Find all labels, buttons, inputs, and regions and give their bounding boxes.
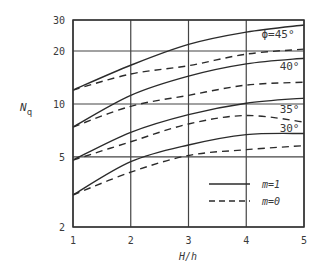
y-tick-label: 2 bbox=[59, 222, 65, 233]
legend: m=1 m=0 bbox=[209, 179, 280, 207]
y-axis-label: Nq bbox=[19, 101, 32, 117]
curve-labels: ϕ=45°40°35°30° bbox=[261, 28, 299, 136]
legend-label-m1: m=1 bbox=[261, 179, 280, 190]
nq-chart: 25102030 12345 ϕ=45°40°35°30° Nq H/h m=1… bbox=[0, 0, 320, 280]
y-axis-ticks: 25102030 bbox=[53, 15, 65, 233]
x-tick-label: 2 bbox=[128, 235, 134, 246]
curve-label: 40° bbox=[280, 60, 300, 73]
x-tick-label: 3 bbox=[185, 235, 191, 246]
y-tick-label: 20 bbox=[53, 46, 65, 57]
x-tick-label: 5 bbox=[301, 235, 307, 246]
x-axis-label: H/h bbox=[178, 251, 197, 262]
y-tick-label: 10 bbox=[53, 99, 65, 110]
y-tick-label: 30 bbox=[53, 15, 65, 26]
x-tick-label: 1 bbox=[70, 235, 76, 246]
legend-label-m0: m=0 bbox=[261, 196, 280, 207]
y-tick-label: 5 bbox=[59, 152, 65, 163]
x-axis-ticks: 12345 bbox=[70, 235, 307, 246]
curve-label: ϕ=45° bbox=[261, 28, 294, 41]
x-tick-label: 4 bbox=[243, 235, 249, 246]
curve-label: 35° bbox=[280, 103, 300, 116]
curve-label: 30° bbox=[280, 122, 300, 135]
